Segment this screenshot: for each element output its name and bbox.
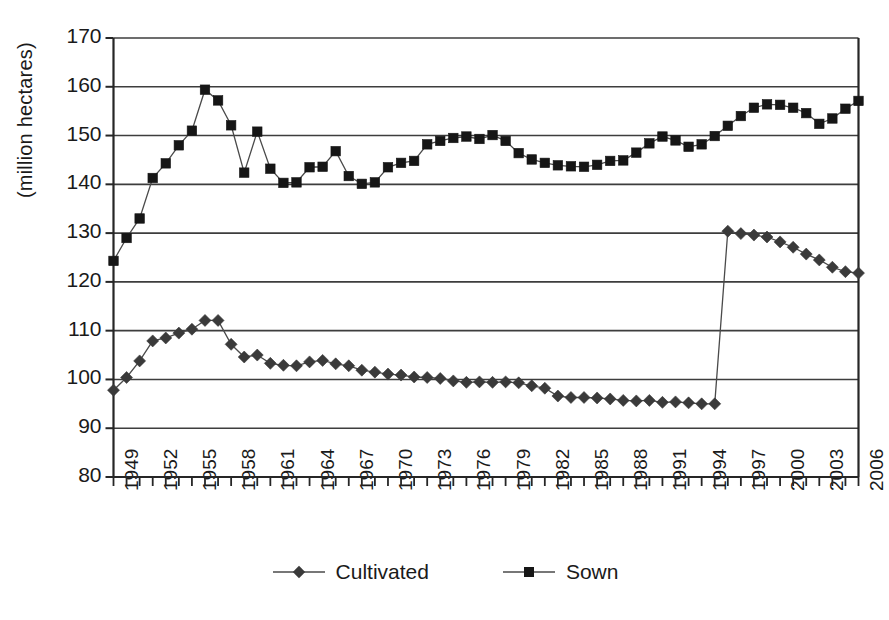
data-point-sown-1962	[279, 178, 289, 188]
data-point-cultivated-1968	[356, 364, 368, 376]
data-point-sown-1972	[409, 156, 419, 166]
data-point-sown-1997	[736, 111, 746, 121]
data-point-sown-1970	[383, 163, 393, 173]
data-point-cultivated-1970	[382, 368, 394, 380]
data-point-sown-1984	[566, 162, 576, 172]
data-point-sown-1990	[645, 139, 655, 149]
data-point-cultivated-1998	[748, 229, 760, 241]
data-point-sown-1960	[253, 127, 263, 136]
data-point-sown-1979	[501, 136, 511, 146]
data-point-sown-1957	[213, 96, 223, 106]
data-point-sown-1956	[200, 85, 210, 95]
data-point-sown-1965	[318, 162, 328, 172]
data-point-sown-2000	[775, 100, 785, 110]
data-point-cultivated-1985	[578, 391, 590, 403]
data-point-cultivated-1978	[487, 376, 499, 388]
data-point-cultivated-1973	[421, 371, 433, 383]
data-point-sown-2002	[801, 108, 811, 118]
data-point-sown-1968	[357, 179, 367, 189]
legend-item-cultivated[interactable]: Cultivated	[271, 560, 429, 584]
data-point-cultivated-1963	[290, 360, 302, 372]
series-cultivated	[108, 225, 865, 410]
data-point-sown-1995	[710, 131, 720, 141]
data-point-sown-1985	[579, 162, 589, 172]
legend-diamond	[292, 566, 304, 578]
data-point-sown-1993	[684, 142, 694, 152]
data-point-sown-1966	[331, 146, 341, 156]
data-point-cultivated-1955	[186, 323, 198, 335]
series-sown	[109, 85, 864, 266]
data-point-sown-1976	[462, 132, 472, 142]
data-point-sown-1969	[370, 178, 380, 188]
data-point-cultivated-1989	[630, 395, 642, 407]
data-point-cultivated-1995	[709, 398, 721, 410]
data-point-sown-1996	[723, 121, 733, 131]
data-point-sown-1964	[305, 163, 315, 173]
data-point-cultivated-1951	[134, 355, 146, 367]
data-point-cultivated-1987	[604, 393, 616, 405]
data-point-cultivated-1964	[304, 356, 316, 368]
data-point-sown-1988	[618, 156, 628, 166]
data-point-sown-1953	[161, 159, 171, 169]
data-point-cultivated-2002	[800, 248, 812, 260]
data-point-cultivated-1965	[317, 354, 329, 366]
data-point-cultivated-1961	[264, 357, 276, 369]
data-point-cultivated-1974	[434, 372, 446, 384]
data-point-cultivated-1988	[617, 394, 629, 406]
data-point-cultivated-1972	[408, 371, 420, 383]
data-point-cultivated-1991	[656, 396, 668, 408]
data-point-cultivated-1992	[670, 396, 682, 408]
data-point-cultivated-2000	[774, 236, 786, 248]
data-point-cultivated-2001	[787, 241, 799, 253]
data-point-cultivated-2003	[813, 254, 825, 266]
data-point-cultivated-2004	[826, 261, 838, 273]
data-point-cultivated-1990	[643, 394, 655, 406]
data-point-sown-1949	[109, 256, 119, 266]
data-point-cultivated-2005	[839, 266, 851, 278]
legend-item-sown[interactable]: Sown	[501, 560, 619, 584]
data-point-cultivated-1997	[735, 228, 747, 240]
square-marker	[501, 562, 557, 582]
data-point-sown-1951	[135, 214, 145, 224]
data-point-sown-1980	[514, 148, 524, 158]
legend-label: Sown	[566, 560, 619, 584]
legend-square	[524, 567, 534, 577]
data-point-sown-1967	[344, 171, 354, 181]
data-point-sown-1986	[592, 160, 602, 170]
data-point-sown-1952	[148, 173, 158, 183]
data-point-sown-1963	[292, 178, 302, 188]
data-point-cultivated-1984	[565, 391, 577, 403]
data-point-sown-1991	[658, 132, 668, 142]
data-point-sown-1974	[436, 136, 446, 146]
data-point-sown-1999	[762, 100, 772, 110]
data-point-sown-1981	[527, 155, 537, 165]
data-point-cultivated-1956	[199, 314, 211, 326]
data-point-sown-2001	[788, 103, 798, 113]
data-point-sown-1994	[697, 140, 707, 150]
data-point-sown-1975	[449, 133, 459, 143]
data-point-cultivated-1982	[539, 382, 551, 394]
data-point-cultivated-1954	[173, 327, 185, 339]
data-point-cultivated-1976	[460, 376, 472, 388]
data-point-cultivated-1983	[552, 390, 564, 402]
chart-legend: CultivatedSown	[0, 560, 889, 584]
plot-area	[0, 0, 889, 620]
data-point-cultivated-1967	[343, 360, 355, 372]
legend-label: Cultivated	[336, 560, 429, 584]
data-point-sown-1958	[226, 121, 236, 131]
data-point-cultivated-1993	[683, 397, 695, 409]
data-point-sown-2006	[854, 96, 864, 106]
data-point-sown-1959	[239, 168, 249, 178]
data-point-sown-1982	[540, 158, 550, 168]
data-point-sown-1955	[187, 126, 197, 135]
data-point-sown-1950	[122, 233, 132, 243]
data-point-sown-1998	[749, 103, 759, 113]
data-point-sown-1954	[174, 141, 184, 151]
data-point-sown-2003	[815, 119, 825, 129]
data-point-cultivated-1996	[722, 225, 734, 237]
data-point-cultivated-1981	[526, 380, 538, 392]
data-point-cultivated-1960	[251, 349, 263, 361]
data-point-cultivated-1962	[277, 359, 289, 371]
chart-figure: (million hectares) 170160150140130120110…	[0, 0, 889, 620]
series-line-sown	[114, 90, 859, 261]
